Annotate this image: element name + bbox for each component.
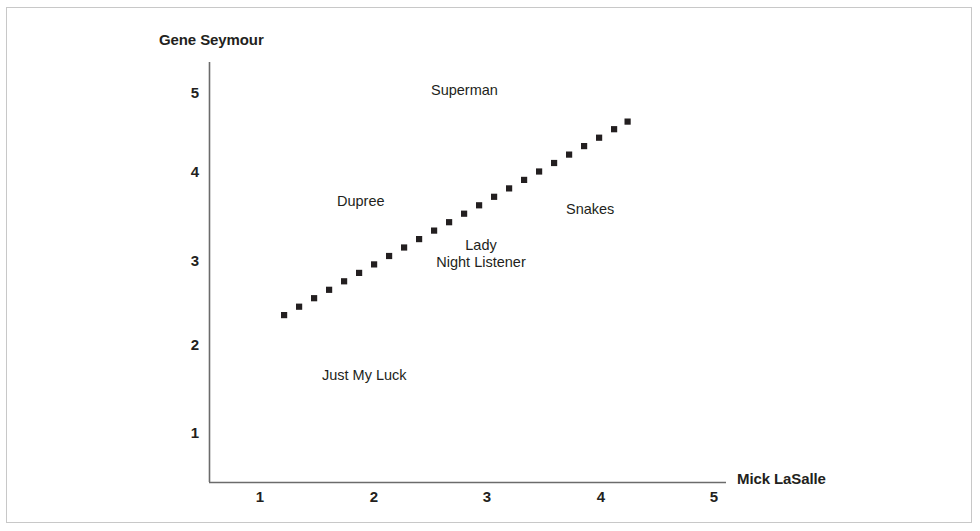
x-tick-label-5: 5 bbox=[702, 488, 726, 505]
y-tick-label-2: 2 bbox=[183, 336, 207, 353]
y-tick-label-1: 1 bbox=[183, 424, 207, 441]
data-point-label-night-listener: Night Listener bbox=[426, 254, 536, 271]
data-point-label-snakes: Snakes bbox=[566, 201, 614, 218]
data-point-label-superman: Superman bbox=[431, 82, 498, 99]
x-tick-label-4: 4 bbox=[589, 488, 613, 505]
x-axis-title: Mick LaSalle bbox=[737, 470, 826, 487]
x-tick-label-1: 1 bbox=[248, 488, 272, 505]
y-tick-label-4: 4 bbox=[183, 163, 207, 180]
data-point-label-just-my-luck: Just My Luck bbox=[322, 367, 407, 384]
chart-figure: Gene Seymour Mick LaSalle 5 4 3 2 1 1 2 … bbox=[0, 0, 980, 531]
x-tick-label-2: 2 bbox=[362, 488, 386, 505]
data-point-label-lady: Lady bbox=[426, 237, 536, 254]
data-point-label-lady-night-listener: Lady Night Listener bbox=[426, 237, 536, 271]
y-axis-title: Gene Seymour bbox=[159, 31, 264, 48]
x-tick-label-3: 3 bbox=[475, 488, 499, 505]
data-point-label-dupree: Dupree bbox=[337, 193, 385, 210]
y-tick-label-5: 5 bbox=[183, 84, 207, 101]
trendline-dotted bbox=[281, 119, 631, 319]
y-tick-label-3: 3 bbox=[183, 252, 207, 269]
